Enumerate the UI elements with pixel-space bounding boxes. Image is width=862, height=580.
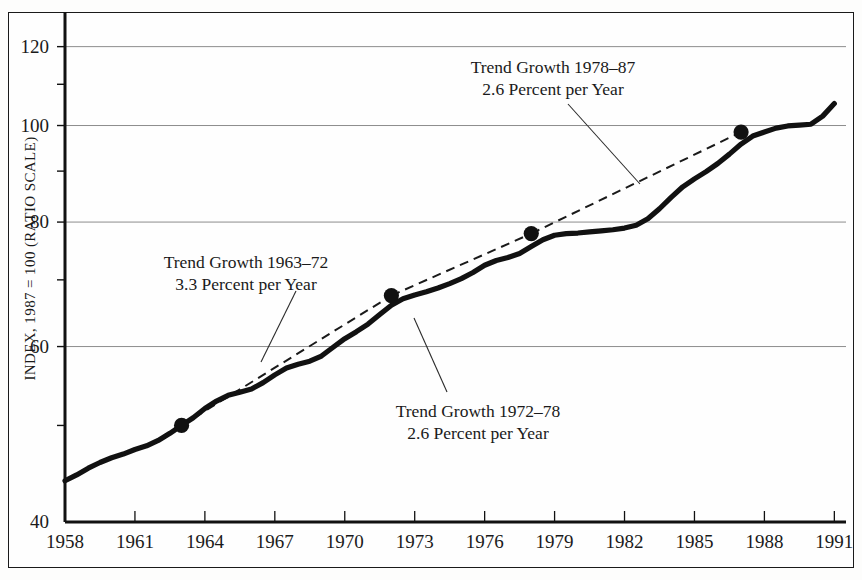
x-tick-label: 1961 bbox=[103, 531, 167, 553]
breakpoint-marker bbox=[733, 124, 748, 139]
annotation-trend-1963-72: Trend Growth 1963–72 3.3 Percent per Yea… bbox=[164, 251, 329, 296]
y-tick-label: 60 bbox=[5, 337, 49, 356]
annotation-line-1: Trend Growth 1963–72 bbox=[164, 251, 329, 273]
x-tick-label: 1985 bbox=[662, 531, 726, 553]
x-tick-label: 1970 bbox=[313, 531, 377, 553]
annotation-line-2: 2.6 Percent per Year bbox=[396, 422, 561, 444]
y-tick-label: 100 bbox=[5, 116, 49, 135]
y-tick-label: 40 bbox=[5, 512, 49, 531]
breakpoint-marker bbox=[174, 418, 189, 433]
annotation-line-1: Trend Growth 1972–78 bbox=[396, 400, 561, 422]
x-tick-label: 1979 bbox=[523, 531, 587, 553]
y-tick-label: 120 bbox=[5, 37, 49, 56]
annotation-line-2: 3.3 Percent per Year bbox=[164, 273, 329, 295]
annotation-trend-1972-78: Trend Growth 1972–78 2.6 Percent per Yea… bbox=[396, 400, 561, 445]
x-tick-label: 1964 bbox=[173, 531, 237, 553]
chart-figure: INDEX, 1987 = 100 (RATIO SCALE) 12010080… bbox=[0, 0, 862, 580]
x-tick-label: 1988 bbox=[732, 531, 796, 553]
annotation-line-2: 2.6 Percent per Year bbox=[471, 78, 636, 100]
x-tick-label: 1967 bbox=[243, 531, 307, 553]
x-tick-label: 1991 bbox=[802, 531, 862, 553]
x-tick-label: 1976 bbox=[453, 531, 517, 553]
annotation-line-1: Trend Growth 1978–87 bbox=[471, 56, 636, 78]
breakpoint-markers-layer bbox=[0, 0, 862, 580]
annotation-trend-1978-87: Trend Growth 1978–87 2.6 Percent per Yea… bbox=[471, 56, 636, 101]
breakpoint-marker bbox=[524, 226, 539, 241]
breakpoint-marker bbox=[384, 288, 399, 303]
y-tick-label: 80 bbox=[5, 212, 49, 231]
x-tick-label: 1982 bbox=[593, 531, 657, 553]
x-tick-label: 1958 bbox=[33, 531, 97, 553]
x-tick-label: 1973 bbox=[383, 531, 447, 553]
